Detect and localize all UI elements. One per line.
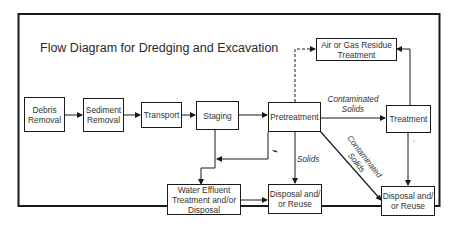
node-debris-removal: DebrisRemoval (24, 97, 65, 132)
node-label: Pretreatment (270, 112, 318, 122)
node-water-effluent: Water EffluentTreatment and/orDisposal (167, 184, 241, 215)
node-label: Treatment (390, 114, 428, 124)
edge-label-line: Solids (324, 105, 382, 115)
node-label: Transport (144, 110, 180, 120)
node-label: Disposal and/ (383, 191, 434, 201)
arrow-treatment-to-airgas (397, 49, 410, 106)
node-label: Debris (28, 105, 61, 115)
node-staging: Staging (196, 101, 239, 130)
node-air-gas-residue-treatment: Air or Gas ResidueTreatment (316, 38, 397, 61)
node-pretreatment: Pretreatment (268, 102, 321, 132)
node-label: Removal (28, 115, 61, 125)
stray-mark (272, 150, 278, 152)
node-transport: Transport (141, 102, 182, 128)
edge-label-line: Contaminated (324, 95, 382, 105)
node-disposal-reuse-right: Disposal and/or Reuse (381, 186, 435, 216)
node-sediment-removal: SedimentRemoval (83, 98, 124, 132)
node-label: or Reuse (270, 199, 321, 209)
arrow-pretreatment-to-junction (217, 132, 268, 159)
edge-label-solids: Solids (297, 155, 319, 165)
node-label: Treatment and/or (172, 195, 236, 205)
stray-dot (413, 140, 414, 141)
node-treatment: Treatment (386, 105, 431, 133)
edge-label-contaminated-solids-top: Contaminated Solids (324, 95, 382, 115)
node-label: or Reuse (383, 201, 434, 211)
node-label: Disposal and/ (270, 189, 321, 199)
diagram-title: Flow Diagram for Dredging and Excavation (40, 41, 278, 55)
node-label: Water Effluent (172, 185, 236, 195)
node-label: Treatment (321, 50, 392, 60)
arrow-pretreatment-to-airgas (295, 49, 315, 102)
arrow-staging-to-water-effluent (201, 130, 215, 184)
node-label: Sediment (86, 105, 121, 115)
node-disposal-reuse-middle: Disposal and/or Reuse (268, 184, 322, 214)
node-label: Removal (86, 115, 121, 125)
flow-diagram: Flow Diagram for Dredging and Excavation… (0, 0, 456, 236)
node-label: Staging (203, 111, 231, 121)
node-label: Air or Gas Residue (321, 40, 392, 50)
node-label: Disposal (172, 205, 236, 215)
